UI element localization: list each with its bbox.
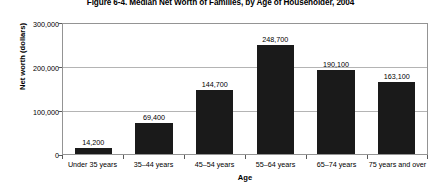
- y-tick-label-0: 0: [0, 151, 59, 160]
- bar-group-75-years-and-over: 163,100: [366, 22, 427, 154]
- bar-value-35-44-years: 69,400: [124, 113, 185, 122]
- bar-value-55-64-years: 248,700: [245, 35, 306, 44]
- bar-75-years-and-over[interactable]: [378, 82, 416, 154]
- x-axis-title: Age: [62, 173, 428, 182]
- bar-group-55-64-years: 248,700: [245, 22, 306, 154]
- x-tick-label-75-years-and-over: 75 years and over: [367, 160, 428, 169]
- x-tick-mark-6: [427, 155, 428, 159]
- x-tick-mark-2: [184, 155, 185, 159]
- bar-value-45-54-years: 144,700: [184, 80, 245, 89]
- x-tick-mark-0: [62, 155, 63, 159]
- chart-figure: Figure 6-4. Median Net Worth of Families…: [0, 0, 441, 190]
- x-tick-label-55-64-years: 55–64 years: [245, 160, 306, 169]
- x-tick-mark-4: [306, 155, 307, 159]
- y-tick-label-200000: 200,000: [0, 64, 59, 73]
- bar-group-45-54-years: 144,700: [184, 22, 245, 154]
- bar-group-65-74-years: 190,100: [306, 22, 367, 154]
- x-tick-mark-5: [367, 155, 368, 159]
- bar-value-65-74-years: 190,100: [306, 60, 367, 69]
- y-tick-label-100000: 100,000: [0, 108, 59, 117]
- bar-65-74-years[interactable]: [317, 70, 355, 154]
- bar-under-35-years[interactable]: [75, 148, 113, 154]
- y-tick-label-300000: 300,000: [0, 20, 59, 29]
- bar-35-44-years[interactable]: [135, 123, 173, 154]
- plot-area: 14,200 69,400 144,700 248,700 190,100 16…: [62, 23, 428, 155]
- bar-group-under-35-years: 14,200: [63, 22, 124, 154]
- bar-45-54-years[interactable]: [196, 90, 234, 154]
- x-tick-mark-3: [245, 155, 246, 159]
- bar-55-64-years[interactable]: [257, 45, 295, 154]
- chart-title: Figure 6-4. Median Net Worth of Families…: [0, 0, 441, 7]
- x-tick-label-35-44-years: 35–44 years: [123, 160, 184, 169]
- bar-group-35-44-years: 69,400: [124, 22, 185, 154]
- x-tick-label-65-74-years: 65–74 years: [306, 160, 367, 169]
- x-tick-label-under-35-years: Under 35 years: [62, 160, 123, 169]
- bar-value-75-years-and-over: 163,100: [366, 72, 427, 81]
- x-tick-mark-1: [123, 155, 124, 159]
- x-tick-label-45-54-years: 45–54 years: [184, 160, 245, 169]
- bar-value-under-35-years: 14,200: [63, 138, 124, 147]
